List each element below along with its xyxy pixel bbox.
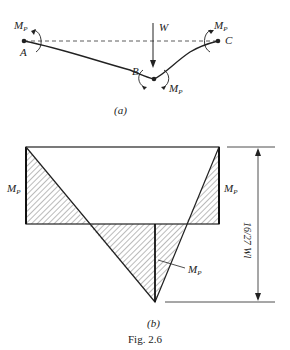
deflected-beam [24,41,218,79]
beam-diagram [22,23,221,90]
label-mp-left: MP [7,183,20,196]
figure-drawing [0,0,290,350]
label-mp-b: MP [169,83,182,96]
figure-caption: Fig. 2.6 [128,334,162,345]
label-c: C [225,35,232,46]
hinge-b [152,77,157,82]
hinge-a [22,39,27,44]
label-mp-c: MP [214,20,227,33]
hinge-c [216,39,221,44]
dimension-label: 16/27 Wl [242,222,252,258]
label-b: B [132,66,139,77]
label-w: W [159,22,168,33]
moment-diagram [26,147,275,302]
label-mp-right: MP [224,183,237,196]
label-mp-a: MP [14,20,27,33]
moment-arc-b-left [139,70,144,87]
label-mp-center: MP [188,264,201,277]
label-a: A [20,47,27,58]
caption-a: (a) [114,105,127,116]
caption-b: (b) [147,318,160,329]
